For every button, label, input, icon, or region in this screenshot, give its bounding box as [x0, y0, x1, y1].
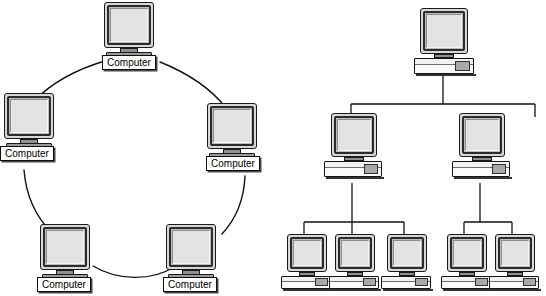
- monitor-bezel: [462, 116, 502, 154]
- computer-node-tree-leaf-1[interactable]: [281, 234, 333, 294]
- monitor-bezel: [210, 106, 254, 146]
- monitor-bezel: [390, 237, 424, 269]
- ring-link-right-bottomright: [222, 176, 245, 234]
- drive-bay-icon: [475, 278, 487, 286]
- case-shadow: [383, 289, 433, 291]
- monitor-screen: [393, 240, 421, 266]
- monitor-screen: [172, 230, 210, 264]
- desktop-case: [489, 276, 539, 289]
- monitor-bezel: [338, 237, 372, 269]
- computer-node-tree-mid-right[interactable]: [451, 113, 511, 185]
- ring-topology-panel: Computer Computer: [0, 0, 273, 296]
- drive-bay-icon: [415, 278, 427, 286]
- computer-node-tree-leaf-2[interactable]: [329, 234, 381, 294]
- desktop-case: [381, 276, 431, 289]
- desktop-case: [414, 58, 474, 74]
- desktop-case: [329, 276, 379, 289]
- monitor-icon: [387, 234, 427, 272]
- case-shadow: [283, 289, 333, 291]
- monitor-icon: [4, 93, 54, 139]
- monitor-icon: [447, 234, 487, 272]
- drive-bay-icon: [523, 278, 535, 286]
- node-label-computer: Computer: [102, 55, 156, 70]
- monitor-icon: [287, 234, 327, 272]
- case-shadow: [331, 289, 381, 291]
- computer-node-tree-mid-left[interactable]: [323, 113, 383, 185]
- monitor-bezel: [107, 5, 151, 45]
- monitor-screen: [426, 14, 462, 48]
- drive-bay-icon: [364, 164, 379, 174]
- case-shadow: [416, 74, 476, 76]
- node-label-computer: Computer: [206, 156, 260, 171]
- monitor-bezel: [169, 227, 213, 267]
- monitor-icon: [335, 234, 375, 272]
- drive-bay-icon: [315, 278, 327, 286]
- desktop-case: [324, 161, 382, 177]
- computer-node-ring-bottom-right[interactable]: Computer: [162, 224, 220, 294]
- monitor-screen: [465, 119, 499, 151]
- monitor-bezel: [423, 11, 465, 51]
- network-topology-diagram: Computer Computer: [0, 0, 546, 296]
- computer-node-tree-leaf-4[interactable]: [441, 234, 493, 294]
- case-shadow: [454, 177, 512, 179]
- monitor-icon: [331, 113, 377, 157]
- monitor-screen: [213, 109, 251, 143]
- node-label-computer: Computer: [0, 146, 54, 161]
- monitor-screen: [293, 240, 321, 266]
- drive-bay-icon: [492, 164, 507, 174]
- monitor-screen: [501, 240, 529, 266]
- monitor-screen: [110, 8, 148, 42]
- computer-node-tree-leaf-5[interactable]: [489, 234, 541, 294]
- desktop-case: [441, 276, 491, 289]
- desktop-case: [281, 276, 331, 289]
- monitor-bezel: [7, 96, 51, 136]
- monitor-icon: [166, 224, 216, 270]
- drive-bay-icon: [363, 278, 375, 286]
- computer-node-ring-left[interactable]: Computer: [0, 93, 58, 165]
- computer-node-ring-bottom-left[interactable]: Computer: [36, 224, 94, 294]
- monitor-bezel: [43, 227, 87, 267]
- computer-node-ring-right[interactable]: Computer: [203, 103, 263, 175]
- monitor-bezel: [450, 237, 484, 269]
- monitor-screen: [453, 240, 481, 266]
- monitor-icon: [40, 224, 90, 270]
- desktop-case: [452, 161, 510, 177]
- case-shadow: [326, 177, 384, 179]
- monitor-icon: [420, 8, 468, 54]
- monitor-screen: [10, 99, 48, 133]
- computer-node-ring-top[interactable]: Computer: [100, 2, 158, 72]
- monitor-icon: [104, 2, 154, 48]
- monitor-bezel: [498, 237, 532, 269]
- node-label-computer: Computer: [163, 277, 217, 292]
- computer-node-tree-leaf-3[interactable]: [381, 234, 433, 294]
- case-shadow: [443, 289, 493, 291]
- case-shadow: [491, 289, 541, 291]
- monitor-bezel: [334, 116, 374, 154]
- node-label-computer: Computer: [37, 277, 91, 292]
- monitor-icon: [207, 103, 257, 149]
- drive-bay-icon: [455, 61, 470, 71]
- ring-link-top-right: [160, 62, 226, 108]
- monitor-icon: [459, 113, 505, 157]
- monitor-screen: [341, 240, 369, 266]
- computer-node-tree-root[interactable]: [412, 8, 476, 78]
- monitor-icon: [495, 234, 535, 272]
- monitor-bezel: [290, 237, 324, 269]
- tree-topology-panel: [273, 0, 546, 296]
- monitor-screen: [46, 230, 84, 264]
- monitor-screen: [337, 119, 371, 151]
